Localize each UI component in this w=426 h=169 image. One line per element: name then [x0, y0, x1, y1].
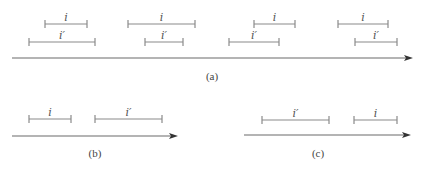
interval-i: i — [338, 11, 388, 28]
interval-label: i — [361, 11, 365, 24]
interval-label: i′ — [292, 107, 299, 120]
interval-label: i′ — [59, 29, 66, 42]
interval-label: i — [48, 106, 52, 119]
panel-label: (a) — [206, 70, 219, 83]
interval-i-prime: i′ — [95, 106, 162, 123]
interval-label: i′ — [161, 29, 168, 42]
panel-label: (b) — [89, 147, 102, 160]
interval-i: i — [45, 11, 87, 28]
panel-b: ii′(b) — [12, 106, 178, 160]
interval-i: i — [128, 11, 195, 28]
interval-label: i — [64, 11, 68, 24]
panel-a: ii′ii′ii′ii′(a) — [12, 11, 413, 83]
interval-diagram: ii′ii′ii′ii′(a)ii′(b)i′i(c) — [0, 0, 426, 169]
panel-label: (c) — [312, 147, 325, 160]
interval-i-prime: i′ — [355, 29, 397, 46]
interval-i: i — [29, 106, 71, 123]
interval-i: i — [254, 11, 295, 28]
interval-i: i — [354, 107, 397, 124]
interval-i-prime: i′ — [229, 29, 279, 46]
interval-i-prime: i′ — [29, 29, 95, 46]
interval-label: i — [273, 11, 277, 24]
interval-i-prime: i′ — [262, 107, 329, 124]
interval-label: i′ — [125, 106, 132, 119]
interval-label: i — [374, 107, 378, 120]
interval-label: i′ — [373, 29, 380, 42]
interval-label: i′ — [251, 29, 258, 42]
panel-c: i′i(c) — [244, 107, 411, 160]
interval-label: i — [160, 11, 164, 24]
interval-i-prime: i′ — [145, 29, 183, 46]
